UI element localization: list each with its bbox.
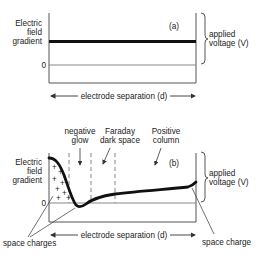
region-positive-column-2: column	[153, 136, 180, 145]
panel-a-brace	[201, 13, 208, 64]
svg-text:+: +	[56, 194, 61, 203]
panel-b-brace-label-2: voltage (V)	[209, 178, 249, 187]
svg-text:+: +	[52, 163, 57, 172]
panel-a-brace-label-2: voltage (V)	[209, 39, 249, 48]
panel-b-ylabel-2: field	[27, 167, 42, 176]
panel-b-zero-label: 0	[41, 199, 46, 208]
region-negative-glow-1: negative	[65, 127, 96, 136]
arrow-positive-column	[155, 148, 161, 165]
panel-a-ylabel-2: field	[27, 28, 42, 37]
panel-a-ylabel-1: Electric	[15, 19, 42, 28]
svg-text:+: +	[52, 175, 57, 184]
region-faraday-2: dark space	[100, 136, 140, 145]
panel-b-brace	[201, 152, 208, 202]
panel-a-ylabel-3: gradient	[12, 37, 42, 46]
panel-b: negative glow Faraday dark space Positiv…	[3, 127, 252, 248]
panel-b-ylabel-1: Electric	[15, 158, 42, 167]
glow-discharge-diagram: Electric field gradient 0 (a) applied vo…	[0, 0, 263, 259]
space-charge-label: space charge	[202, 238, 252, 247]
region-positive-column-1: Positive	[152, 127, 181, 136]
callout-line-right	[192, 188, 214, 234]
region-negative-glow-2: glow	[72, 136, 89, 145]
panel-a-xlabel: electrode separation (d)	[81, 92, 168, 101]
panel-a-zero-label: 0	[41, 61, 46, 70]
panel-b-tag: (b)	[169, 159, 179, 168]
arrow-faraday	[103, 148, 110, 164]
panel-b-brace-label-1: applied	[209, 169, 236, 178]
panel-a-brace-label-1: applied	[209, 30, 236, 39]
panel-b-xlabel: electrode separation (d)	[81, 231, 168, 240]
region-faraday-1: Faraday	[105, 127, 136, 136]
panel-a-tag: (a)	[169, 22, 179, 31]
space-charges-label: space charges	[3, 239, 56, 248]
svg-text:+: +	[55, 185, 60, 194]
svg-text:+: +	[60, 179, 65, 188]
panel-a: Electric field gradient 0 (a) applied vo…	[12, 13, 248, 101]
panel-b-ylabel-3: gradient	[12, 176, 42, 185]
